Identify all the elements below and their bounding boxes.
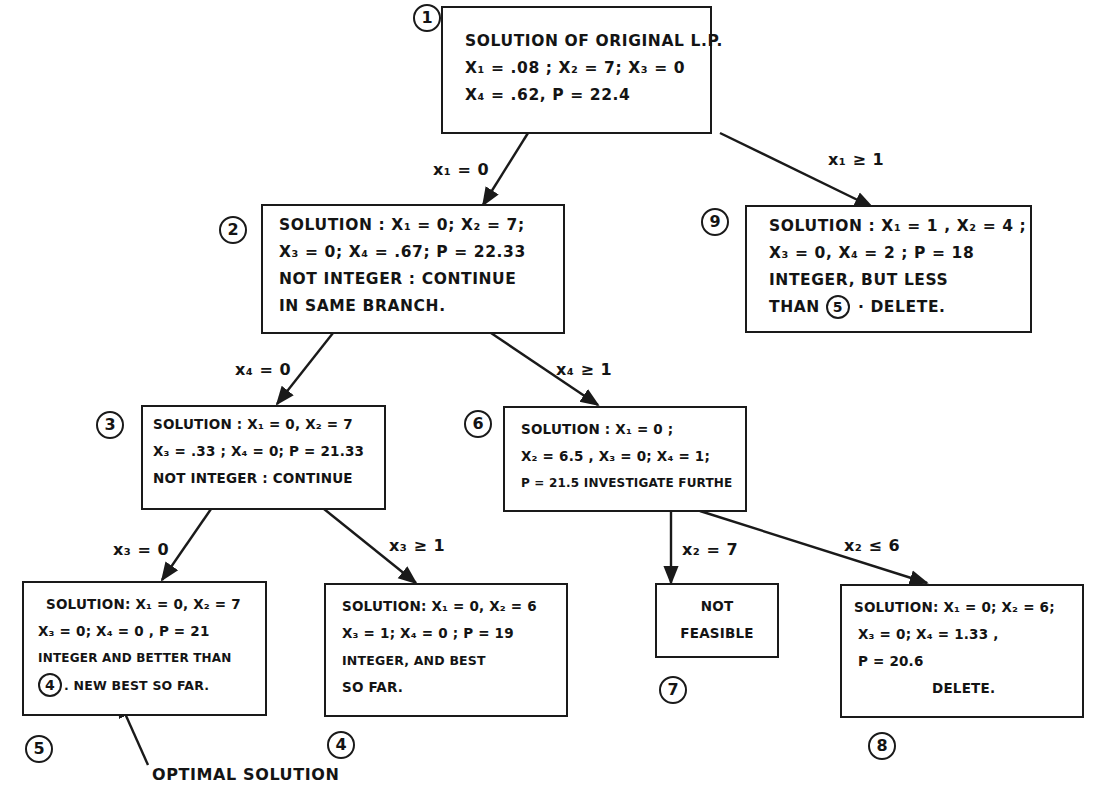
- node-2-line-3: Not integer : continue: [279, 266, 551, 293]
- edge-label-6-8: x₂ ≤ 6: [844, 536, 900, 555]
- edge-label-3-4: x₃ ≥ 1: [389, 536, 445, 555]
- node-5-box: Solution: x₁ = 0, x₂ = 7 x₃ = 0; x₄ = 0 …: [22, 581, 267, 716]
- node-8-line-3: P = 20.6: [854, 648, 1070, 675]
- node-6-line-3: P = 21.5 Investigate further: [521, 470, 733, 497]
- node-number-5: 5: [25, 735, 53, 763]
- node-4-line-2: x₃ = 1; x₄ = 0 ; P = 19: [342, 620, 554, 647]
- node-1-line-1: Solution of original L.P.: [465, 28, 698, 55]
- node-3-line-3: Not integer : continue: [153, 465, 372, 492]
- node-5-ref-4: 4: [38, 673, 62, 697]
- node-5-line-4-suffix: . New best so far.: [64, 678, 209, 693]
- node-number-6: 6: [464, 410, 492, 438]
- node-number-1: 1: [413, 4, 441, 32]
- node-9-line-2: x₃ = 0, x₄ = 2 ; P = 18: [769, 240, 1018, 267]
- node-9-line-1: Solution : x₁ = 1 , x₂ = 4 ;: [769, 213, 1018, 240]
- node-5-line-3: Integer and better than: [38, 645, 253, 672]
- edge-1-9: [720, 133, 872, 207]
- node-1-line-3: x₄ = .62, P = 22.4: [465, 82, 698, 109]
- node-3-line-1: Solution : x₁ = 0, x₂ = 7: [153, 411, 372, 438]
- node-8-line-4: Delete.: [854, 675, 1070, 702]
- node-1-line-2: x₁ = .08 ; x₂ = 7; x₃ = 0: [465, 55, 698, 82]
- node-5-line-2: x₃ = 0; x₄ = 0 , P = 21: [38, 618, 253, 645]
- node-7-line-1: Not: [657, 593, 777, 620]
- node-4-line-1: Solution: x₁ = 0, x₂ = 6: [342, 593, 554, 620]
- edge-1-2: [483, 133, 528, 205]
- node-9-ref-5: 5: [826, 295, 850, 319]
- edge-label-2-6: x₄ ≥ 1: [556, 360, 612, 379]
- node-7-box: Not Feasible: [655, 583, 779, 658]
- node-4-line-4: so far.: [342, 674, 554, 701]
- edge-label-1-9: x₁ ≥ 1: [828, 150, 884, 169]
- node-8-line-2: x₃ = 0; x₄ = 1.33 ,: [854, 621, 1070, 648]
- node-4-box: Solution: x₁ = 0, x₂ = 6 x₃ = 1; x₄ = 0 …: [324, 583, 568, 717]
- node-3-box: Solution : x₁ = 0, x₂ = 7 x₃ = .33 ; x₄ …: [141, 405, 386, 510]
- node-1-box: Solution of original L.P. x₁ = .08 ; x₂ …: [441, 6, 712, 134]
- node-9-line-4-suffix: · Delete.: [852, 298, 946, 316]
- edge-label-3-5: x₃ = 0: [113, 540, 169, 559]
- node-7-line-2: Feasible: [657, 620, 777, 647]
- node-2-line-4: in same branch.: [279, 293, 551, 320]
- node-9-line-3: Integer, but less: [769, 267, 1018, 294]
- node-9-line-4: than 5 · Delete.: [769, 294, 1018, 321]
- node-6-line-2: x₂ = 6.5 , x₃ = 0; x₄ = 1;: [521, 443, 733, 470]
- node-9-box: Solution : x₁ = 1 , x₂ = 4 ; x₃ = 0, x₄ …: [745, 205, 1032, 333]
- node-number-9: 9: [701, 208, 729, 236]
- edge-3-5: [162, 509, 211, 580]
- node-2-line-1: Solution : x₁ = 0; x₂ = 7;: [279, 212, 551, 239]
- node-number-2: 2: [219, 216, 247, 244]
- node-5-line-1: Solution: x₁ = 0, x₂ = 7: [38, 591, 253, 618]
- node-3-line-2: x₃ = .33 ; x₄ = 0; P = 21.33: [153, 438, 372, 465]
- node-2-line-2: x₃ = 0; x₄ = .67; P = 22.33: [279, 239, 551, 266]
- node-number-4: 4: [327, 731, 355, 759]
- node-number-3: 3: [96, 411, 124, 439]
- edge-label-6-7: x₂ = 7: [682, 540, 738, 559]
- node-5-line-4: 4. New best so far.: [38, 672, 253, 699]
- edge-label-2-3: x₄ = 0: [235, 360, 291, 379]
- node-8-line-1: Solution: x₁ = 0; x₂ = 6;: [854, 594, 1070, 621]
- node-number-7: 7: [659, 676, 687, 704]
- node-8-box: Solution: x₁ = 0; x₂ = 6; x₃ = 0; x₄ = 1…: [840, 584, 1084, 718]
- node-4-line-3: Integer, and best: [342, 647, 554, 674]
- optimal-solution-annotation: Optimal solution: [152, 765, 339, 784]
- edge-label-1-2: x₁ = 0: [433, 160, 489, 179]
- node-2-box: Solution : x₁ = 0; x₂ = 7; x₃ = 0; x₄ = …: [261, 204, 565, 334]
- node-6-box: Solution : x₁ = 0 ; x₂ = 6.5 , x₃ = 0; x…: [503, 406, 747, 512]
- node-9-line-4-prefix: than: [769, 298, 820, 316]
- node-6-line-1: Solution : x₁ = 0 ;: [521, 416, 733, 443]
- node-number-8: 8: [868, 732, 896, 760]
